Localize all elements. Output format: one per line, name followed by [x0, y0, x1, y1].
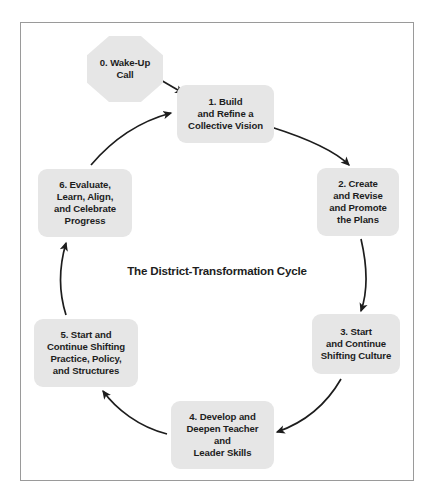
node-wake-up-call[interactable]: 0. Wake-Up Call	[87, 36, 163, 102]
node-shifting-culture[interactable]: 3. Start and Continue Shifting Culture	[312, 314, 400, 374]
arrow-1-to-2	[271, 127, 349, 165]
arrow-2-to-3	[361, 239, 366, 311]
figure-frame: 0. Wake-Up Call 1. Build and Refine a Co…	[20, 22, 414, 481]
node-build-refine-vision-label: 1. Build and Refine a Collective Vision	[188, 96, 263, 133]
node-create-revise-promote-plans[interactable]: 2. Create and Revise and Promote the Pla…	[317, 168, 399, 236]
node-develop-deepen-skills[interactable]: 4. Develop and Deepen Teacher and Leader…	[171, 401, 274, 469]
node-build-refine-vision[interactable]: 1. Build and Refine a Collective Vision	[177, 85, 274, 143]
node-evaluate-learn-align-celebrate[interactable]: 6. Evaluate, Learn, Align, and Celebrate…	[38, 169, 132, 237]
node-wake-up-call-label: 0. Wake-Up Call	[100, 57, 150, 81]
arrow-4-to-5	[103, 391, 167, 434]
arrow-3-to-4	[277, 379, 341, 432]
diagram-center-title: The District-Transformation Cycle	[81, 264, 353, 277]
node-create-revise-promote-plans-label: 2. Create and Revise and Promote the Pla…	[329, 178, 387, 227]
arrow-6-to-1	[91, 113, 171, 165]
district-transformation-cycle-diagram: 0. Wake-Up Call 1. Build and Refine a Co…	[21, 23, 413, 480]
arrow-5-to-6	[61, 243, 66, 315]
node-shifting-culture-label: 3. Start and Continue Shifting Culture	[321, 326, 391, 363]
node-shifting-practice-policy-structures[interactable]: 5. Start and Continue Shifting Practice,…	[34, 319, 138, 387]
node-shifting-practice-policy-structures-label: 5. Start and Continue Shifting Practice,…	[47, 329, 125, 378]
node-develop-deepen-skills-label: 4. Develop and Deepen Teacher and Leader…	[186, 411, 258, 460]
node-evaluate-learn-align-celebrate-label: 6. Evaluate, Learn, Align, and Celebrate…	[54, 179, 116, 228]
